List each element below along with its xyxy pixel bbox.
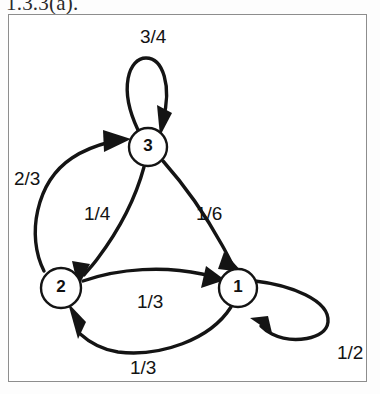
arrowhead-1-1 [250,316,272,333]
edge-2-to-1 [83,266,225,288]
node-label-1: 1 [218,277,258,297]
edge-3-to-3 [127,58,172,136]
edge-weight-1-2: 1/3 [130,357,156,379]
edge-weight-3-3: 3/4 [140,26,166,48]
node-label-3: 3 [128,136,168,156]
edge-2-to-3 [35,130,131,271]
state-transition-diagram [0,0,380,394]
edge-weight-2-1: 1/3 [137,291,163,313]
edge-weight-3-2: 1/4 [84,203,110,225]
figure-root: 1.3.3(a). [0,0,380,394]
edge-weight-1-1: 1/2 [337,342,363,364]
edge-weight-3-1: 1/6 [196,203,222,225]
edge-weight-2-3: 2/3 [14,168,40,190]
edge-1-to-1 [250,281,328,339]
node-label-2: 2 [41,277,81,297]
arrowhead-2-3 [103,130,131,152]
arrowhead-1-2 [68,303,86,339]
